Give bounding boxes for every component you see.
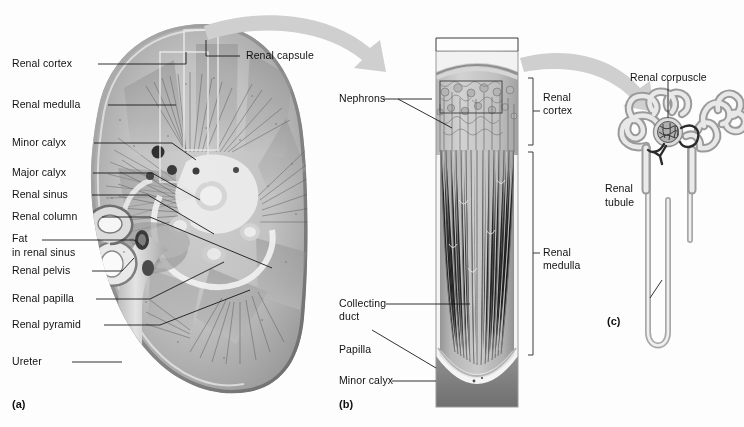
inset-box-a	[160, 30, 218, 182]
label-b-renal-medulla-2: medulla	[543, 259, 580, 272]
label-papilla: Papilla	[339, 343, 371, 356]
label-b-renal-cortex-1: Renal	[543, 91, 571, 104]
label-renal-papilla: Renal papilla	[12, 292, 74, 305]
label-fat-line1: Fat	[12, 232, 27, 245]
panel-a-tag: (a)	[12, 398, 25, 410]
arrow-a-to-b	[204, 15, 386, 72]
label-b-renal-medulla-1: Renal	[543, 246, 571, 259]
label-ureter: Ureter	[12, 355, 42, 368]
panel-b-brackets	[528, 78, 540, 355]
label-renal-sinus: Renal sinus	[12, 188, 68, 201]
panel-c-tag: (c)	[607, 315, 620, 327]
figure-canvas: Renal cortex Renal medulla Minor calyx M…	[0, 0, 744, 427]
label-renal-capsule: Renal capsule	[246, 49, 314, 62]
label-renal-corpuscle: Renal corpuscle	[630, 71, 707, 84]
label-collecting-duct-1: Collecting	[339, 297, 386, 310]
label-renal-column: Renal column	[12, 210, 77, 223]
label-nephrons: Nephrons	[339, 92, 385, 105]
kidney-wedge	[436, 51, 518, 408]
label-renal-pelvis: Renal pelvis	[12, 264, 70, 277]
label-minor-calyx: Minor calyx	[12, 136, 66, 149]
label-collecting-duct-2: duct	[339, 310, 359, 323]
nephron-diagram	[622, 92, 744, 346]
label-renal-tubule-2: tubule	[605, 196, 634, 209]
panel-b-tag: (b)	[339, 398, 353, 410]
label-major-calyx: Major calyx	[12, 166, 66, 179]
label-renal-tubule-1: Renal	[605, 182, 633, 195]
anatomy-artwork	[0, 0, 744, 427]
label-renal-medulla: Renal medulla	[12, 98, 80, 111]
label-b-renal-cortex-2: cortex	[543, 104, 572, 117]
label-minor-calyx-b: Minor calyx	[339, 374, 393, 387]
panel-b-frame	[436, 38, 518, 51]
label-renal-cortex: Renal cortex	[12, 57, 72, 70]
label-fat-line2: in renal sinus	[12, 246, 75, 259]
kidney-section	[88, 24, 314, 393]
label-renal-pyramid: Renal pyramid	[12, 318, 81, 331]
